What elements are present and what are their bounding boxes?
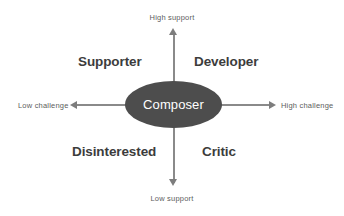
center-ellipse: Composer — [125, 81, 222, 128]
arrow-down-icon — [169, 179, 177, 186]
axis-label-low-challenge: Low challenge — [18, 101, 69, 110]
axis-label-high-support: High support — [0, 13, 344, 22]
axis-label-high-challenge: High challenge — [281, 101, 333, 110]
quadrant-label-supporter: Supporter — [78, 54, 142, 69]
quadrant-label-critic: Critic — [202, 144, 236, 159]
quadrant-label-disinterested: Disinterested — [72, 144, 156, 159]
axis-label-low-support: Low support — [0, 194, 344, 203]
arrow-up-icon — [169, 28, 177, 35]
arrow-right-icon — [269, 101, 276, 109]
arrow-left-icon — [70, 101, 77, 109]
center-ellipse-label: Composer — [143, 97, 204, 112]
quadrant-label-developer: Developer — [194, 54, 258, 69]
quadrant-diagram: High support Low support Low challenge H… — [0, 0, 344, 216]
